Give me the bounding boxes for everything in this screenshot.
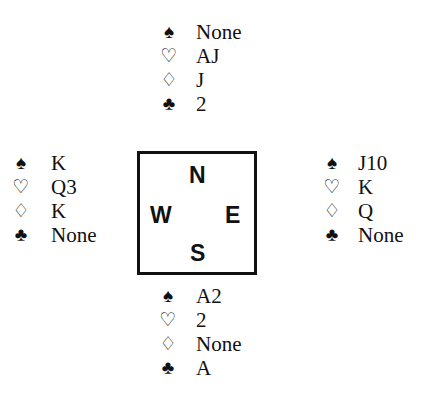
north-spades-holding: None: [196, 20, 242, 44]
north-clubs-holding: 2: [196, 92, 207, 116]
diamond-icon: ♢: [158, 68, 180, 92]
spade-icon: ♠: [10, 151, 32, 175]
south-hearts-holding: 2: [196, 308, 207, 332]
north-hearts-holding: AJ: [196, 44, 219, 68]
spade-icon: ♠: [158, 20, 180, 44]
north-spades-row: ♠ None: [158, 20, 180, 44]
west-hearts-holding: Q3: [51, 175, 77, 199]
south-spades-row: ♠ A2: [157, 284, 179, 308]
north-hearts-row: ♡ AJ: [158, 44, 180, 68]
east-clubs-row: ♣ None: [321, 223, 343, 247]
west-spades-row: ♠ K: [10, 151, 32, 175]
diamond-icon: ♢: [10, 199, 32, 223]
west-clubs-row: ♣ None: [10, 223, 32, 247]
east-spades-holding: J10: [358, 151, 387, 175]
east-spades-row: ♠ J10: [321, 151, 343, 175]
spade-icon: ♠: [321, 151, 343, 175]
spade-icon: ♠: [157, 284, 179, 308]
east-diamonds-holding: Q: [358, 199, 373, 223]
east-clubs-holding: None: [358, 223, 404, 247]
south-spades-holding: A2: [196, 284, 222, 308]
west-diamonds-holding: K: [51, 199, 66, 223]
south-clubs-row: ♣ A: [157, 356, 179, 380]
club-icon: ♣: [10, 223, 32, 247]
compass-south-label: S: [190, 242, 205, 265]
west-clubs-holding: None: [51, 223, 97, 247]
heart-icon: ♡: [157, 308, 179, 332]
south-diamonds-row: ♢ None: [157, 332, 179, 356]
compass-east-label: E: [225, 204, 240, 227]
east-hearts-row: ♡ K: [321, 175, 343, 199]
club-icon: ♣: [158, 92, 180, 116]
north-clubs-row: ♣ 2: [158, 92, 180, 116]
club-icon: ♣: [157, 356, 179, 380]
hand-east: ♠ J10 ♡ K ♢ Q ♣ None: [321, 151, 343, 247]
compass-north-label: N: [189, 164, 206, 187]
south-diamonds-holding: None: [196, 332, 242, 356]
compass-west-label: W: [150, 204, 172, 227]
east-diamonds-row: ♢ Q: [321, 199, 343, 223]
hand-south: ♠ A2 ♡ 2 ♢ None ♣ A: [157, 284, 179, 380]
hand-north: ♠ None ♡ AJ ♢ J ♣ 2: [158, 20, 180, 116]
west-spades-holding: K: [51, 151, 66, 175]
club-icon: ♣: [321, 223, 343, 247]
diamond-icon: ♢: [321, 199, 343, 223]
west-hearts-row: ♡ Q3: [10, 175, 32, 199]
south-clubs-holding: A: [196, 356, 211, 380]
hand-west: ♠ K ♡ Q3 ♢ K ♣ None: [10, 151, 32, 247]
diamond-icon: ♢: [157, 332, 179, 356]
north-diamonds-holding: J: [196, 68, 204, 92]
south-hearts-row: ♡ 2: [157, 308, 179, 332]
heart-icon: ♡: [158, 44, 180, 68]
heart-icon: ♡: [321, 175, 343, 199]
west-diamonds-row: ♢ K: [10, 199, 32, 223]
north-diamonds-row: ♢ J: [158, 68, 180, 92]
heart-icon: ♡: [10, 175, 32, 199]
east-hearts-holding: K: [358, 175, 373, 199]
compass-box: N W E S: [137, 151, 257, 275]
